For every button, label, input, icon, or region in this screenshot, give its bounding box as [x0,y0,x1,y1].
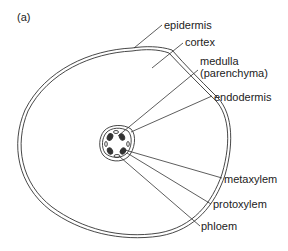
label-epidermis: epidermis [164,19,212,31]
label-endodermis: endodermis [214,91,271,103]
leader-epidermis [134,25,162,48]
label-parenchyma: (parenchyma) [200,67,268,79]
leader-protoxylem [127,153,211,204]
label-medulla: medulla [200,55,239,67]
root-cross-section-diagram [0,0,288,251]
leader-phloem [120,157,200,226]
label-metaxylem: metaxylem [224,173,277,185]
label-cortex: cortex [185,36,215,48]
panel-label: (a) [17,11,30,23]
epidermis-outline [18,47,231,238]
leader-endodermis [131,96,212,132]
label-phloem: phloem [201,220,237,232]
phloem-cell [114,155,120,158]
metaxylem-cell [106,133,114,142]
stele [100,125,135,160]
leader-medulla [118,70,198,136]
label-protoxylem: protoxylem [213,198,267,210]
